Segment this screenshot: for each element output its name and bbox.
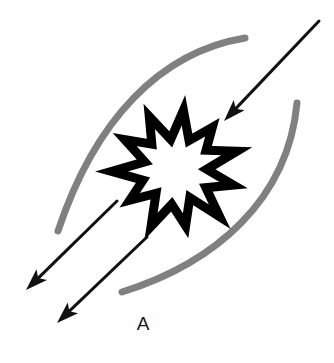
region-label-a: A [137, 313, 150, 334]
figure-canvas: A [0, 0, 334, 363]
diagram-svg: A [0, 0, 334, 363]
